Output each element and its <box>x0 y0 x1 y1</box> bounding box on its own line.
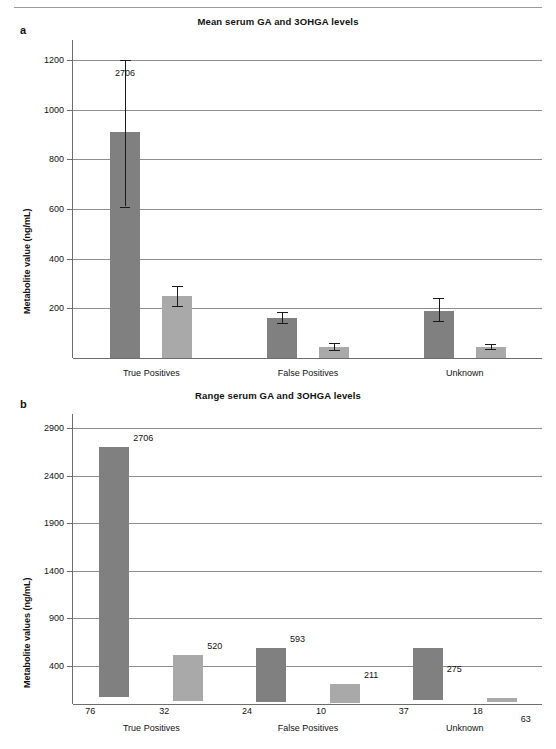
panel-b-range-bar-3ohga-0 <box>173 655 203 701</box>
figure-page: a Mean serum GA and 3OHGA levels Metabol… <box>0 0 556 749</box>
panel-b-gridline <box>73 523 542 524</box>
panel-a-error-bar-cap-2-0-0 <box>433 298 444 299</box>
panel-b-baseline <box>73 704 542 705</box>
panel-a-y-tick-label: 800 <box>49 154 64 164</box>
panel-b-x-category-label: False Positives <box>278 723 339 733</box>
panel-b-plot-area: 400900140019002400290076270632520True Po… <box>72 414 542 704</box>
panel-a-gridline <box>73 209 542 210</box>
panel-a-x-category-label: Unknown <box>446 368 484 378</box>
panel-a-error-bar-line-0-1 <box>177 286 178 306</box>
panel-a-y-tick <box>67 259 73 260</box>
panel-b-y-tick-label: 900 <box>49 613 64 623</box>
panel-b-gridline <box>73 571 542 572</box>
panel-a-gridline <box>73 159 542 160</box>
panel-a-error-bar-line-0-0 <box>125 60 126 207</box>
panel-b-y-tick <box>67 618 73 619</box>
panel-b-max-label-0-1: 520 <box>207 641 222 651</box>
panel-b-max-label-2-0: 275 <box>447 664 462 674</box>
panel-a-y-tick <box>67 60 73 61</box>
panel-a-error-bar-cap-1-1-0 <box>329 343 340 344</box>
panel-a-error-bar-line-1-0 <box>282 312 283 323</box>
panel-a-y-tick <box>67 308 73 309</box>
panel-b-range-bar-ga-2 <box>413 648 443 701</box>
page-top-rule <box>14 7 542 8</box>
panel-b-range-bar-3ohga-1 <box>330 684 360 703</box>
panel-a-y-tick-label: 1200 <box>44 55 64 65</box>
panel-b: b Range serum GA and 3OHGA levels Metabo… <box>0 388 556 749</box>
panel-b-range-bar-ga-0 <box>99 447 129 697</box>
panel-b-min-label-0-0: 76 <box>85 706 95 716</box>
panel-a-error-bar-cap-0-1-0 <box>172 286 183 287</box>
panel-b-y-tick <box>67 523 73 524</box>
panel-a-y-tick-label: 400 <box>49 254 64 264</box>
panel-b-max-label-1-1: 211 <box>364 670 378 680</box>
panel-b-max-label-0-0: 2706 <box>133 433 153 443</box>
panel-b-gridline <box>73 618 542 619</box>
panel-b-y-tick <box>67 428 73 429</box>
panel-a-y-axis-title: Metabolite value (ng/mL) <box>22 208 32 314</box>
panel-b-max-label-1-0: 593 <box>290 634 305 644</box>
panel-a-y-tick-label: 200 <box>49 303 64 313</box>
panel-b-gridline <box>73 666 542 667</box>
panel-a-error-bar-cap-0-0-1 <box>120 207 130 208</box>
panel-a-y-tick-label: 600 <box>49 204 64 214</box>
panel-a-y-tick <box>67 159 73 160</box>
panel-b-y-tick-label: 2900 <box>44 423 64 433</box>
panel-a-error-bar-cap-0-0-0 <box>120 60 131 61</box>
panel-a-error-bar-cap-2-1-1 <box>485 349 496 350</box>
panel-a-baseline <box>73 358 542 359</box>
panel-b-max-label-2-1: 63 <box>521 714 531 724</box>
panel-a-error-bar-cap-1-1-1 <box>329 350 340 351</box>
panel-a-gridline <box>73 259 542 260</box>
panel-a-gridline <box>73 308 542 309</box>
panel-b-gridline <box>73 476 542 477</box>
panel-b-y-tick <box>67 476 73 477</box>
panel-b-min-label-1-0: 24 <box>242 706 252 716</box>
panel-a-y-tick <box>67 209 73 210</box>
panel-a-title: Mean serum GA and 3OHGA levels <box>0 16 556 27</box>
panel-b-y-tick-label: 2400 <box>44 471 64 481</box>
panel-a-error-bar-cap-1-0-1 <box>277 323 288 324</box>
panel-b-range-bar-ga-1 <box>256 648 286 702</box>
panel-a-plot-area: 20040060080010001200True PositivesFalse … <box>72 40 542 358</box>
panel-b-min-label-1-1: 10 <box>316 706 326 716</box>
panel-b-y-tick-label: 1900 <box>44 518 64 528</box>
panel-a-error-bar-cap-1-0-0 <box>277 312 288 313</box>
panel-b-title: Range serum GA and 3OHGA levels <box>0 390 556 401</box>
panel-a-x-category-label: False Positives <box>278 368 339 378</box>
panel-a-error-bar-cap-2-1-0 <box>485 344 496 345</box>
panel-b-y-tick <box>67 571 73 572</box>
panel-a-gridline <box>73 110 542 111</box>
panel-a-error-bar-cap-2-0-1 <box>433 321 444 322</box>
page-top-cut-text <box>120 0 420 5</box>
panel-a-y-tick <box>67 110 73 111</box>
panel-a-gridline <box>73 60 542 61</box>
panel-b-x-category-label: True Positives <box>123 723 180 733</box>
panel-b-min-label-0-1: 32 <box>159 706 169 716</box>
panel-b-x-category-label: Unknown <box>446 723 484 733</box>
panel-a-error-bar-cap-0-1-1 <box>172 306 183 307</box>
panel-b-y-tick <box>67 666 73 667</box>
panel-b-y-axis-title: Metabolite values (ng/mL) <box>22 577 32 688</box>
panel-a-x-category-label: True Positives <box>123 368 180 378</box>
panel-a-value-annotation-2706: 2706 <box>115 68 135 78</box>
panel-b-range-bar-3ohga-2 <box>487 698 517 702</box>
panel-b-gridline <box>73 428 542 429</box>
panel-a: a Mean serum GA and 3OHGA levels Metabol… <box>0 14 556 386</box>
panel-b-min-label-2-1: 18 <box>473 706 483 716</box>
panel-a-y-tick-label: 1000 <box>44 105 64 115</box>
panel-b-min-label-2-0: 37 <box>399 706 409 716</box>
panel-b-y-tick-label: 1400 <box>44 566 64 576</box>
panel-b-y-tick-label: 400 <box>49 661 64 671</box>
panel-a-error-bar-line-2-0 <box>439 298 440 320</box>
